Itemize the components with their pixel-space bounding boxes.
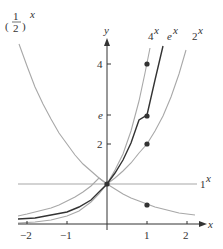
half-numerator: 1 [13, 10, 19, 22]
point-half [144, 202, 149, 207]
x-tick-2: 2 [183, 229, 189, 241]
label-one-pow-x: 1 x [200, 172, 211, 190]
y-tick-4: 4 [97, 58, 103, 70]
svg-text:x: x [172, 24, 178, 36]
svg-text:e: e [167, 30, 172, 42]
svg-text:1: 1 [200, 178, 206, 190]
x-tick-neg2: −2 [20, 229, 32, 241]
label-four-pow-x: 4 x [148, 24, 159, 42]
label-half-pow-x: 1 2 ( ) x [5, 8, 35, 34]
exponential-chart: −2 −1 1 2 2 e 4 x y 1 2 ( ) x 4 x e x 2 … [0, 0, 223, 249]
half-exponent: x [29, 8, 35, 20]
x-tick-neg1: −1 [60, 229, 72, 241]
svg-text:2: 2 [192, 30, 198, 42]
curve-e-pow-x[interactable] [18, 46, 163, 219]
svg-text:x: x [197, 24, 203, 36]
label-e-pow-x: e x [167, 24, 178, 42]
point-four [144, 61, 149, 66]
half-denominator: 2 [13, 22, 19, 34]
svg-text:x: x [205, 172, 211, 184]
x-tick-1: 1 [144, 229, 150, 241]
svg-text:(: ( [5, 20, 9, 33]
svg-text:): ) [22, 20, 26, 33]
x-axis-label: x [207, 218, 213, 230]
y-axis-label: y [103, 24, 109, 36]
curve-four-pow-x [18, 48, 150, 223]
label-two-pow-x: 2 x [192, 24, 203, 42]
point-origin-one [104, 181, 109, 186]
y-tick-2: 2 [97, 138, 103, 150]
axes [18, 38, 207, 230]
svg-text:x: x [153, 24, 159, 36]
point-two [144, 141, 149, 146]
point-e [144, 113, 149, 118]
y-tick-e: e [98, 109, 103, 121]
